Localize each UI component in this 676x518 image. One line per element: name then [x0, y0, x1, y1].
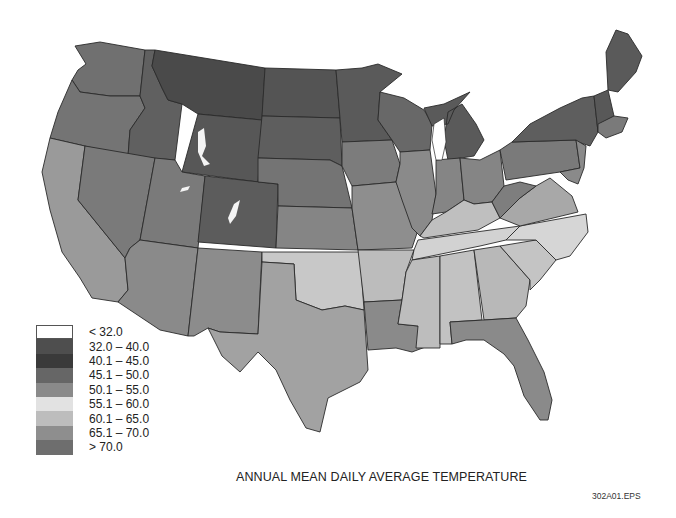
- region-north-dakota: [262, 68, 340, 118]
- lake-michigan: [432, 118, 446, 160]
- legend-item: < 32.0: [36, 325, 149, 339]
- legend-swatch: [36, 426, 73, 440]
- region-florida: [450, 318, 552, 420]
- legend-swatch: [36, 411, 73, 425]
- legend-swatch: [36, 368, 73, 382]
- region-colorado: [198, 176, 278, 248]
- legend-label: 55.1 – 60.0: [89, 397, 149, 411]
- region-wyoming: [182, 114, 262, 182]
- region-new-york: [512, 96, 598, 146]
- legend-label: < 32.0: [89, 325, 123, 339]
- legend-swatch: [36, 383, 73, 397]
- legend-label: > 70.0: [89, 440, 123, 454]
- file-code: 302A01.EPS: [592, 491, 641, 501]
- region-kansas: [276, 206, 358, 250]
- legend-item: 55.1 – 60.0: [36, 397, 149, 411]
- legend-label: 45.1 – 50.0: [89, 368, 149, 382]
- region-arizona: [118, 240, 198, 336]
- legend-item: 40.1 – 45.0: [36, 354, 149, 368]
- legend-label: 60.1 – 65.0: [89, 412, 149, 426]
- legend-item: 60.1 – 65.0: [36, 411, 149, 425]
- legend-swatch: [36, 397, 73, 411]
- map-title: ANNUAL MEAN DAILY AVERAGE TEMPERATURE: [236, 470, 527, 484]
- legend-label: 50.1 – 55.0: [89, 383, 149, 397]
- legend-swatch: [36, 440, 73, 454]
- legend-label: 40.1 – 45.0: [89, 354, 149, 368]
- legend-item: > 70.0: [36, 440, 149, 454]
- region-washington: [72, 42, 145, 96]
- legend-swatch: [36, 325, 73, 339]
- region-iowa: [342, 140, 400, 186]
- legend-swatch: [36, 339, 73, 353]
- legend-label: 32.0 – 40.0: [89, 340, 149, 354]
- legend-item: 50.1 – 55.0: [36, 383, 149, 397]
- legend-item: 65.1 – 70.0: [36, 426, 149, 440]
- region-maine: [606, 30, 642, 92]
- region-new-mexico: [188, 248, 262, 336]
- legend-item: 32.0 – 40.0: [36, 339, 149, 353]
- legend-label: 65.1 – 70.0: [89, 426, 149, 440]
- region-michigan: [424, 92, 484, 160]
- legend-item: 45.1 – 50.0: [36, 368, 149, 382]
- great-lakes: [432, 118, 446, 160]
- legend: < 32.0 32.0 – 40.0 40.1 – 45.0 45.1 – 50…: [36, 325, 149, 455]
- legend-swatch: [36, 354, 73, 368]
